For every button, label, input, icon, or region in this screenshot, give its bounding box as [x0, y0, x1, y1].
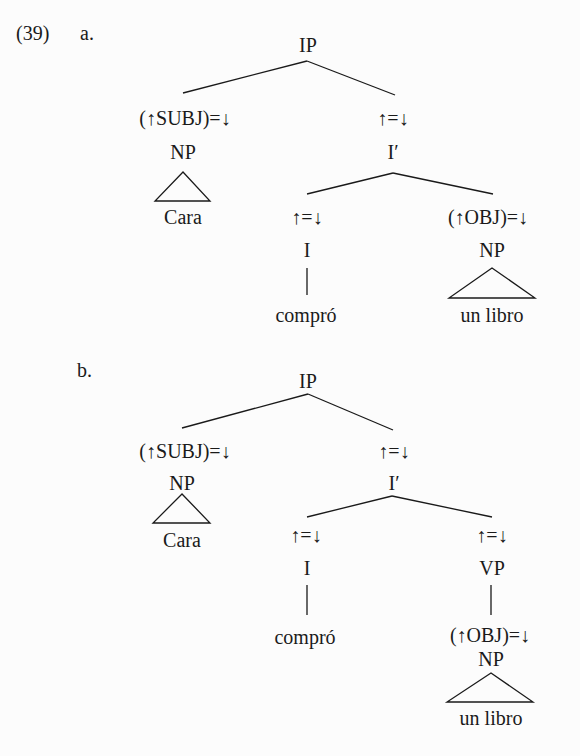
example-number: (39) — [16, 23, 49, 43]
subj-category-np: NP — [169, 473, 195, 493]
obj-words: un libro — [460, 708, 523, 728]
ibar-node: I′ — [387, 142, 398, 162]
tree-label: b. — [77, 360, 92, 380]
subj-annotation: (↑SUBJ)=↓ — [139, 108, 230, 128]
i-annotation: ↑=↓ — [290, 525, 321, 545]
ibar-node: I′ — [388, 473, 399, 493]
obj-annotation: (↑OBJ)=↓ — [450, 625, 530, 645]
i-node: I — [304, 558, 311, 578]
tree-label: a. — [80, 23, 94, 43]
ibar-annotation: ↑=↓ — [377, 108, 408, 128]
obj-category-np: NP — [479, 240, 505, 260]
subj-word: Cara — [164, 207, 202, 227]
vp-node: VP — [479, 558, 505, 578]
obj-words: un libro — [461, 305, 524, 325]
obj-category-np: NP — [478, 649, 504, 669]
i-node: I — [304, 240, 311, 260]
subj-word: Cara — [163, 530, 201, 550]
i-annotation: ↑=↓ — [291, 207, 322, 227]
i-word: compró — [274, 627, 335, 647]
root-node-ip: IP — [299, 371, 317, 391]
root-node-ip: IP — [299, 35, 317, 55]
obj-annotation: (↑OBJ)=↓ — [448, 207, 528, 227]
ibar-annotation: ↑=↓ — [378, 441, 409, 461]
subj-annotation: (↑SUBJ)=↓ — [139, 441, 230, 461]
vp-annotation: ↑=↓ — [476, 525, 507, 545]
subj-category-np: NP — [170, 142, 196, 162]
i-word: compró — [275, 305, 336, 325]
